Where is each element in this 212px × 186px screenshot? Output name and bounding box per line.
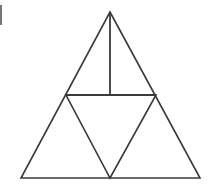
triangle-diagram <box>0 0 212 186</box>
inverted-inner-triangle <box>66 95 156 178</box>
figure-canvas <box>0 0 212 186</box>
